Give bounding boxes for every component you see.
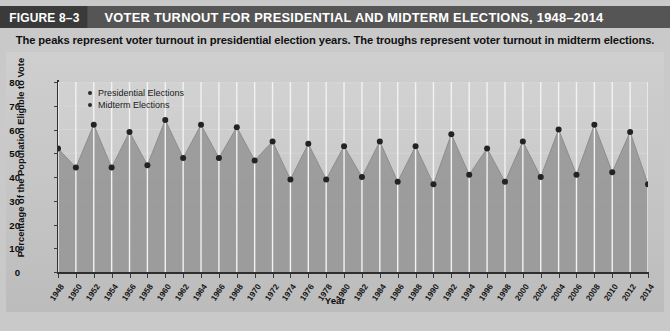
data-point-marker	[234, 124, 240, 130]
data-point-marker	[323, 176, 329, 182]
area-fill	[58, 120, 648, 272]
x-axis-tick	[594, 274, 595, 278]
chart-panel: Percentage of the Population Eligible to…	[6, 52, 664, 312]
figure-title: VOTER TURNOUT FOR PRESIDENTIAL AND MIDTE…	[95, 6, 603, 28]
x-axis-tick	[219, 274, 220, 278]
x-axis-tick	[344, 274, 345, 278]
x-axis-tick	[451, 274, 452, 278]
y-axis-tick-label: 30	[0, 195, 20, 206]
data-point-marker	[413, 143, 419, 149]
legend-label: Midterm Elections	[98, 100, 170, 110]
figure-number-label: FIGURE 8–3	[0, 6, 88, 28]
figure-container: FIGURE 8–3 VOTER TURNOUT FOR PRESIDENTIA…	[0, 0, 670, 331]
y-axis-tick-label: 40	[0, 172, 20, 183]
x-axis-tick	[290, 274, 291, 278]
chart-legend: Presidential ElectionsMidterm Elections	[88, 88, 184, 112]
x-axis-tick	[130, 274, 131, 278]
data-point-marker	[377, 138, 383, 144]
x-axis-tick	[559, 274, 560, 278]
y-axis-tick	[54, 272, 58, 273]
figure-header-bar: FIGURE 8–3 VOTER TURNOUT FOR PRESIDENTIA…	[0, 6, 670, 28]
x-axis-tick	[326, 274, 327, 278]
legend-dot-icon	[88, 91, 92, 95]
figure-subtitle: The peaks represent voter turnout in pre…	[0, 30, 670, 50]
data-point-marker	[252, 157, 258, 163]
x-axis-tick	[487, 274, 488, 278]
data-point-marker	[484, 146, 490, 152]
data-point-marker	[198, 122, 204, 128]
x-axis-tick	[58, 274, 59, 278]
x-axis-tick	[94, 274, 95, 278]
x-axis-line	[57, 272, 649, 274]
x-axis-tick	[255, 274, 256, 278]
data-point-marker	[395, 179, 401, 185]
x-axis-tick	[398, 274, 399, 278]
x-axis-tick	[469, 274, 470, 278]
x-axis-tick	[76, 274, 77, 278]
data-point-marker	[466, 172, 472, 178]
legend-dot-icon	[88, 103, 92, 107]
data-point-marker	[91, 122, 97, 128]
data-point-marker	[270, 138, 276, 144]
x-axis-tick	[648, 274, 649, 278]
x-axis-tick	[541, 274, 542, 278]
data-point-marker	[591, 122, 597, 128]
data-point-marker	[448, 131, 454, 137]
x-axis-tick	[380, 274, 381, 278]
x-axis-tick	[362, 274, 363, 278]
data-point-marker	[520, 138, 526, 144]
data-point-marker	[305, 141, 311, 147]
data-point-marker	[144, 162, 150, 168]
data-point-marker	[502, 179, 508, 185]
x-axis-title: Year	[6, 295, 664, 306]
x-axis-tick	[523, 274, 524, 278]
y-axis-tick-label: 80	[0, 77, 20, 88]
data-point-marker	[127, 129, 133, 135]
x-axis-tick	[165, 274, 166, 278]
y-axis-tick-label: 20	[0, 219, 20, 230]
data-point-marker	[538, 174, 544, 180]
x-axis-tick	[112, 274, 113, 278]
y-axis-tick-label: 0	[0, 267, 20, 278]
data-point-marker	[627, 129, 633, 135]
x-axis-tick	[147, 274, 148, 278]
data-point-marker	[162, 117, 168, 123]
y-axis-tick-label: 10	[0, 243, 20, 254]
data-point-marker	[573, 172, 579, 178]
x-axis-tick	[433, 274, 434, 278]
data-point-marker	[341, 143, 347, 149]
data-point-marker	[359, 174, 365, 180]
x-axis-tick	[630, 274, 631, 278]
y-axis-tick-label: 50	[0, 148, 20, 159]
x-axis-tick	[505, 274, 506, 278]
data-point-marker	[287, 176, 293, 182]
x-axis-tick	[576, 274, 577, 278]
legend-item: Midterm Elections	[88, 100, 184, 110]
y-axis-tick-label: 70	[0, 100, 20, 111]
data-point-marker	[216, 155, 222, 161]
data-point-marker	[556, 127, 562, 133]
data-point-marker	[109, 165, 115, 171]
x-axis-tick	[416, 274, 417, 278]
x-axis-tick	[183, 274, 184, 278]
data-point-marker	[609, 169, 615, 175]
data-point-marker	[180, 155, 186, 161]
legend-label: Presidential Elections	[98, 88, 184, 98]
x-axis-tick	[237, 274, 238, 278]
data-point-marker	[73, 165, 79, 171]
x-axis-tick	[612, 274, 613, 278]
data-point-marker	[430, 181, 436, 187]
legend-item: Presidential Elections	[88, 88, 184, 98]
y-axis-tick-label: 60	[0, 124, 20, 135]
x-axis-tick	[273, 274, 274, 278]
x-axis-tick	[308, 274, 309, 278]
x-axis-tick	[201, 274, 202, 278]
